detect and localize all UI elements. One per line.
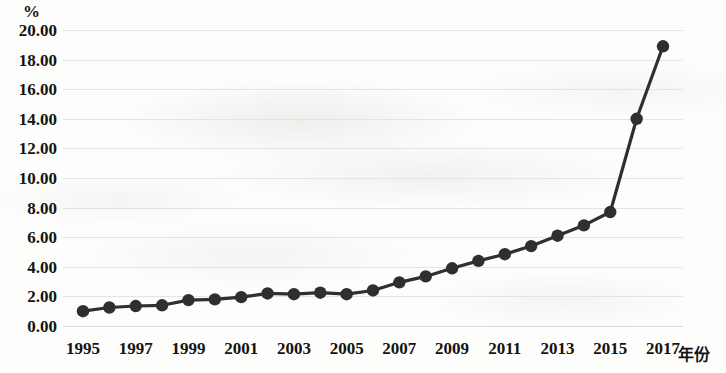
data-point-marker <box>657 40 669 52</box>
x-axis-tick-label: 2003 <box>277 340 311 357</box>
y-axis-tick-label: 20.00 <box>0 22 57 39</box>
data-point-marker <box>182 294 194 306</box>
x-axis-tick-label: 1995 <box>66 340 100 357</box>
data-point-marker <box>472 255 484 267</box>
x-axis-title: 年份 <box>678 341 710 365</box>
data-point-marker <box>77 305 89 317</box>
y-axis-tick-label: 18.00 <box>0 51 57 68</box>
y-axis-tick-label: 12.00 <box>0 140 57 157</box>
x-axis-tick-label: 2007 <box>382 340 416 357</box>
data-point-marker <box>630 113 642 125</box>
y-axis-tick-label: 4.00 <box>0 258 57 275</box>
data-point-marker <box>367 284 379 296</box>
x-axis-tick-label: 2015 <box>593 340 627 357</box>
line-series-chart <box>63 30 683 326</box>
data-point-marker <box>288 288 300 300</box>
data-point-marker <box>156 299 168 311</box>
data-point-marker <box>499 248 511 260</box>
y-axis-tick-label: 8.00 <box>0 199 57 216</box>
data-point-marker <box>235 291 247 303</box>
series-line-path <box>83 46 663 311</box>
data-point-marker <box>261 287 273 299</box>
data-point-marker <box>578 219 590 231</box>
y-axis-tick-labels: 0.002.004.006.008.0010.0012.0014.0016.00… <box>0 0 57 373</box>
data-point-marker <box>314 287 326 299</box>
data-point-marker <box>393 276 405 288</box>
x-axis-tick-label: 1999 <box>171 340 205 357</box>
series-markers-group <box>77 40 669 317</box>
data-point-marker <box>340 288 352 300</box>
plot-area <box>63 30 683 326</box>
x-axis-tick-label: 2009 <box>435 340 469 357</box>
y-axis-tick-label: 16.00 <box>0 81 57 98</box>
data-point-marker <box>446 262 458 274</box>
y-axis-tick-label: 6.00 <box>0 229 57 246</box>
x-axis-tick-label: 2017 <box>646 340 680 357</box>
gridline <box>63 326 683 327</box>
data-point-marker <box>420 270 432 282</box>
data-point-marker <box>551 230 563 242</box>
y-axis-tick-label: 0.00 <box>0 318 57 335</box>
x-axis-tick-label: 2005 <box>330 340 364 357</box>
x-axis-tick-label: 2011 <box>488 340 521 357</box>
x-axis-tick-label: 2013 <box>541 340 575 357</box>
y-axis-tick-label: 2.00 <box>0 288 57 305</box>
data-point-marker <box>604 206 616 218</box>
chart-page: % 0.002.004.006.008.0010.0012.0014.0016.… <box>0 0 726 373</box>
data-point-marker <box>525 240 537 252</box>
data-point-marker <box>130 300 142 312</box>
x-axis-tick-label: 1997 <box>119 340 153 357</box>
y-axis-tick-label: 10.00 <box>0 170 57 187</box>
x-axis-tick-label: 2001 <box>224 340 258 357</box>
data-point-marker <box>209 293 221 305</box>
y-axis-tick-label: 14.00 <box>0 110 57 127</box>
data-point-marker <box>103 301 115 313</box>
